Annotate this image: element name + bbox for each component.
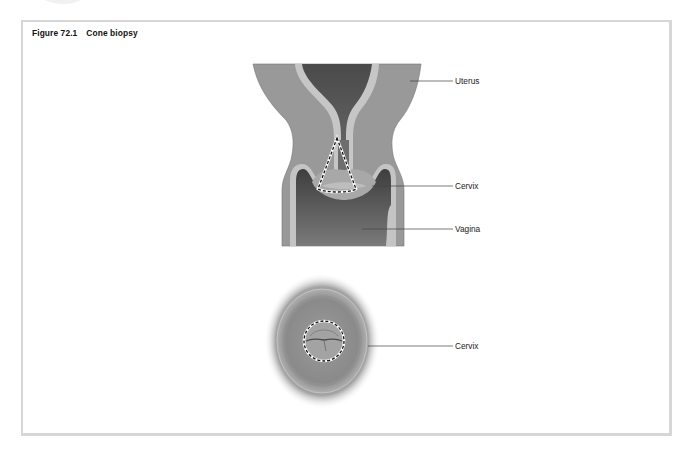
label-cervix-frontal: Cervix — [455, 341, 479, 351]
label-cervix: Cervix — [455, 181, 479, 191]
frontal-cervix-view — [264, 273, 380, 409]
label-uterus: Uterus — [455, 76, 479, 86]
sagittal-section — [253, 64, 421, 246]
cone-biopsy-diagram — [0, 0, 693, 457]
label-vagina: Vagina — [455, 224, 480, 234]
